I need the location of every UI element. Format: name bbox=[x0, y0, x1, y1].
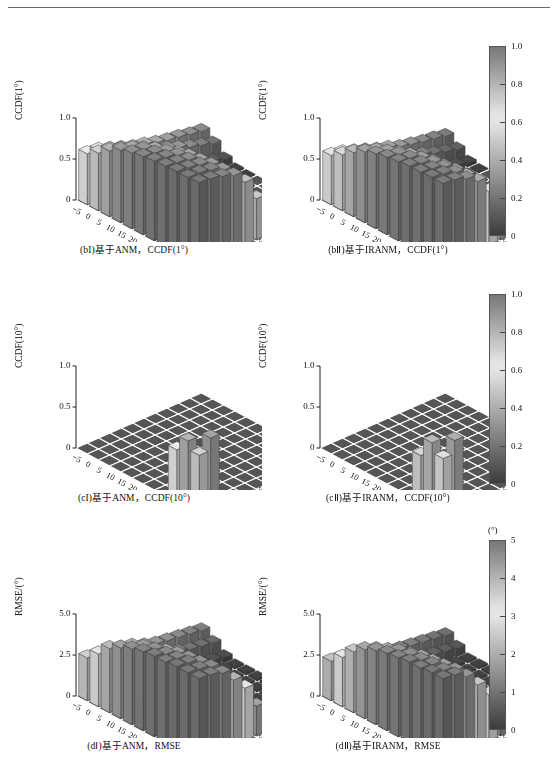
colorbar-tick-mark bbox=[500, 692, 505, 693]
colorbar-tick-mark bbox=[500, 160, 505, 161]
figure-row-c: CCDF(10°) (cI)基于ANM，CCDF(10°) CCDF(10°) … bbox=[0, 262, 558, 512]
colorbar-tick-label: 0.2 bbox=[511, 441, 522, 451]
panel-caption-cI: (cI)基于ANM，CCDF(10°) bbox=[10, 490, 258, 504]
colorbar-tick-mark bbox=[500, 84, 505, 85]
panel-caption-bI: (bI)基于ANM，CCDF(1°) bbox=[10, 242, 258, 256]
colorbar-tick-label: 0 bbox=[511, 725, 516, 735]
panel-caption-dI: (dⅠ)基于ANM，RMSE bbox=[10, 738, 258, 752]
panel-dII: RMSE/(°) (dⅡ)基于IRANM，RMSE bbox=[258, 510, 506, 738]
colorbar-tick-label: 0.2 bbox=[511, 193, 522, 203]
panel-caption-bII: (bⅡ)基于IRANM，CCDF(1°) bbox=[264, 242, 512, 256]
yaxis-label-cII: CCDF(10°) bbox=[258, 330, 268, 344]
colorbar-b: 1.00.80.60.40.20 bbox=[489, 46, 506, 236]
figure-row-b: CCDF(1°) (bI)基于ANM，CCDF(1°) CCDF(1°) (bⅡ… bbox=[0, 14, 558, 264]
plot-canvas-cII bbox=[258, 262, 506, 490]
colorbar-tick-mark bbox=[500, 578, 505, 579]
plot-canvas-dII bbox=[258, 510, 506, 738]
colorbar-tick-mark bbox=[500, 446, 505, 447]
colorbar-tick-label: 0 bbox=[511, 231, 516, 241]
yaxis-label-dII: RMSE/(°) bbox=[258, 578, 268, 592]
header-rule bbox=[8, 7, 550, 8]
figure-row-d: RMSE/(°) (dⅠ)基于ANM，RMSE RMSE/(°) (dⅡ)基于I… bbox=[0, 510, 558, 760]
panel-caption-cII: (cⅡ)基于IRANM，CCDF(10°) bbox=[264, 490, 512, 504]
colorbar-tick-label: 3 bbox=[511, 611, 516, 621]
colorbar-tick-label: 1.0 bbox=[511, 41, 522, 51]
colorbar-tick-mark bbox=[500, 332, 505, 333]
colorbar-tick-label: 1.0 bbox=[511, 289, 522, 299]
colorbar-tick-mark bbox=[500, 198, 505, 199]
colorbar-tick-label: 0.8 bbox=[511, 79, 522, 89]
colorbar-tick-label: 2 bbox=[511, 649, 516, 659]
colorbar-tick-mark bbox=[500, 408, 505, 409]
colorbar-c: 1.00.80.60.40.20 bbox=[489, 294, 506, 484]
colorbar-tick-label: 4 bbox=[511, 573, 516, 583]
colorbar-tick-mark bbox=[500, 616, 505, 617]
colorbar-gradient-c bbox=[489, 294, 506, 484]
colorbar-tick-label: 0.6 bbox=[511, 117, 522, 127]
colorbar-gradient-b bbox=[489, 46, 506, 236]
panel-bI: CCDF(1°) (bI)基于ANM，CCDF(1°) bbox=[14, 14, 262, 242]
colorbar-tick-label: 0.4 bbox=[511, 403, 522, 413]
colorbar-tick-label: 0 bbox=[511, 479, 516, 489]
panel-caption-dII: (dⅡ)基于IRANM，RMSE bbox=[264, 738, 512, 752]
colorbar-tick-label: 1 bbox=[511, 687, 516, 697]
panel-cII: CCDF(10°) (cⅡ)基于IRANM，CCDF(10°) bbox=[258, 262, 506, 490]
colorbar-tick-mark bbox=[500, 122, 505, 123]
colorbar-gradient-d bbox=[489, 540, 506, 730]
colorbar-tick-label: 5 bbox=[511, 535, 516, 545]
panel-bII: CCDF(1°) (bⅡ)基于IRANM，CCDF(1°) bbox=[258, 14, 506, 242]
plot-canvas-dI bbox=[14, 510, 262, 738]
plot-canvas-bII bbox=[258, 14, 506, 242]
colorbar-tick-mark bbox=[500, 370, 505, 371]
colorbar-tick-label: 0.4 bbox=[511, 155, 522, 165]
colorbar-d: (°) 543210 bbox=[489, 540, 506, 730]
colorbar-tick-label: 0.6 bbox=[511, 365, 522, 375]
yaxis-label-cI: CCDF(10°) bbox=[14, 330, 24, 344]
yaxis-label-bII: CCDF(1°) bbox=[258, 82, 268, 96]
colorbar-unit-d: (°) bbox=[488, 525, 498, 535]
panel-dI: RMSE/(°) (dⅠ)基于ANM，RMSE bbox=[14, 510, 262, 738]
yaxis-label-bI: CCDF(1°) bbox=[14, 82, 24, 96]
yaxis-label-dI: RMSE/(°) bbox=[14, 578, 24, 592]
colorbar-tick-mark bbox=[500, 654, 505, 655]
colorbar-tick-label: 0.8 bbox=[511, 327, 522, 337]
plot-canvas-cI bbox=[14, 262, 262, 490]
plot-canvas-bI bbox=[14, 14, 262, 242]
panel-cI: CCDF(10°) (cI)基于ANM，CCDF(10°) bbox=[14, 262, 262, 490]
